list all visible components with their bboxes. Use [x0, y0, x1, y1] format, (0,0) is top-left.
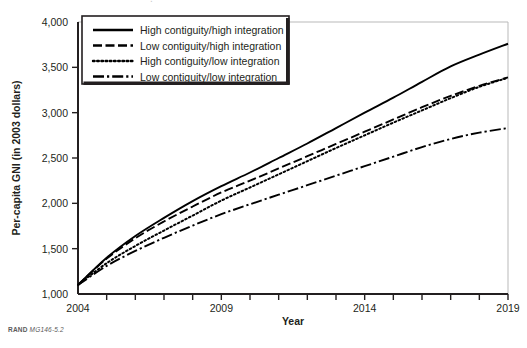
figure-container: . 1,0001,5002,0002,5003,0003,5004,000 20…	[0, 0, 527, 348]
figure-note-id: MG146-5.2	[30, 326, 64, 333]
y-tick-label: 2,500	[42, 152, 68, 164]
legend-label-1: High contiguity/high integration	[140, 24, 284, 36]
x-tick-label: 2004	[66, 302, 90, 314]
legend-label-4: Low contiguity/low integration	[140, 71, 277, 83]
y-axis-title: Per-capita GNI (in 2003 dollars)	[10, 80, 22, 235]
y-tick-label: 3,500	[42, 61, 68, 73]
y-tick-label: 1,000	[42, 288, 68, 300]
chart-legend: High contiguity/high integrationLow cont…	[82, 16, 290, 85]
series-line-2	[78, 77, 508, 285]
x-tick-label: 2009	[210, 302, 234, 314]
x-tick-label: 2019	[496, 302, 520, 314]
x-axis-ticks: 2004200920142019	[66, 294, 520, 314]
y-tick-label: 2,000	[42, 197, 68, 209]
figure-note-prefix: RAND	[8, 326, 28, 333]
x-axis-title: Year	[282, 315, 304, 327]
legend-label-2: Low contiguity/high integration	[140, 40, 281, 52]
x-tick-label: 2014	[353, 302, 377, 314]
cropped-title-fragment: .	[0, 0, 527, 6]
y-tick-label: 4,000	[42, 16, 68, 28]
line-chart: 1,0001,5002,0002,5003,0003,5004,000 2004…	[0, 0, 527, 348]
figure-source-note: RAND MG146-5.2	[8, 326, 64, 333]
y-axis-ticks: 1,0001,5002,0002,5003,0003,5004,000	[42, 16, 78, 300]
y-tick-label: 1,500	[42, 243, 68, 255]
legend-label-3: High contiguity/low integration	[140, 55, 280, 67]
y-tick-label: 3,000	[42, 107, 68, 119]
legend-box-shadow-right	[286, 18, 290, 84]
series-line-3	[78, 78, 508, 285]
